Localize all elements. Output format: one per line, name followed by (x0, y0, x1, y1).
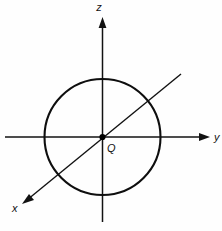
coordinate-axes-diagram: z y x Q (0, 0, 222, 231)
z-axis-label: z (95, 1, 102, 13)
y-axis-arrowhead-icon (199, 133, 210, 141)
origin-label: Q (107, 142, 116, 154)
y-axis-label: y (213, 131, 221, 143)
origin-point-marker (99, 134, 105, 140)
x-axis-label: x (11, 202, 18, 214)
z-axis-arrowhead-icon (99, 17, 107, 28)
figure-container: z y x Q (0, 0, 222, 231)
